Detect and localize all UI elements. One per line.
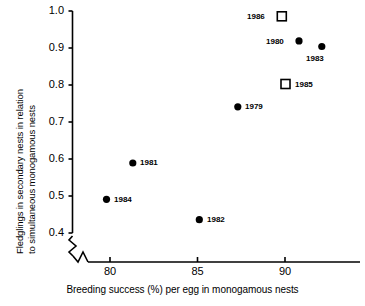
point-label-1985: 1985 — [295, 80, 313, 89]
scatter-plot-figure: 0.4 0.5 0.6 0.7 0.8 0.9 1.0 80 85 90 198… — [0, 0, 365, 306]
point-label-1986: 1986 — [247, 12, 265, 21]
data-point-1986 — [277, 12, 286, 21]
x-axis-break-icon — [73, 252, 88, 262]
point-label-1984: 1984 — [114, 195, 132, 204]
data-point-1984 — [103, 196, 110, 203]
data-point-1982 — [196, 216, 203, 223]
y-axis-label-line2: to simultaneous monogamous nests — [26, 105, 37, 254]
y-tick-label-1-0: 1.0 — [34, 4, 64, 16]
point-label-1979: 1979 — [245, 102, 263, 111]
y-axis-label-line1: Fledglings in secondary nests in relatio… — [14, 89, 25, 254]
x-axis-label: Breeding success (%) per egg in monogamo… — [0, 284, 365, 295]
x-tick-label-80: 80 — [95, 265, 125, 277]
point-label-1980: 1980 — [266, 37, 284, 46]
data-point-1980 — [295, 37, 302, 44]
y-tick-label-0-5: 0.5 — [34, 189, 64, 201]
y-tick-label-0-7: 0.7 — [34, 115, 64, 127]
x-tick-label-90: 90 — [270, 265, 300, 277]
data-point-1983 — [318, 43, 325, 50]
point-label-1983: 1983 — [306, 54, 324, 63]
point-label-1982: 1982 — [207, 215, 225, 224]
y-tick-label-0-9: 0.9 — [34, 41, 64, 53]
x-tick-label-85: 85 — [183, 265, 213, 277]
data-point-1979 — [234, 103, 241, 110]
point-label-1981: 1981 — [140, 158, 158, 167]
y-axis-break-icon — [69, 236, 76, 256]
data-point-1985 — [281, 80, 290, 89]
data-point-1981 — [129, 159, 136, 166]
y-tick-label-0-4: 0.4 — [34, 226, 64, 238]
y-tick-label-0-6: 0.6 — [34, 152, 64, 164]
y-tick-label-0-8: 0.8 — [34, 78, 64, 90]
data-markers — [103, 12, 326, 223]
